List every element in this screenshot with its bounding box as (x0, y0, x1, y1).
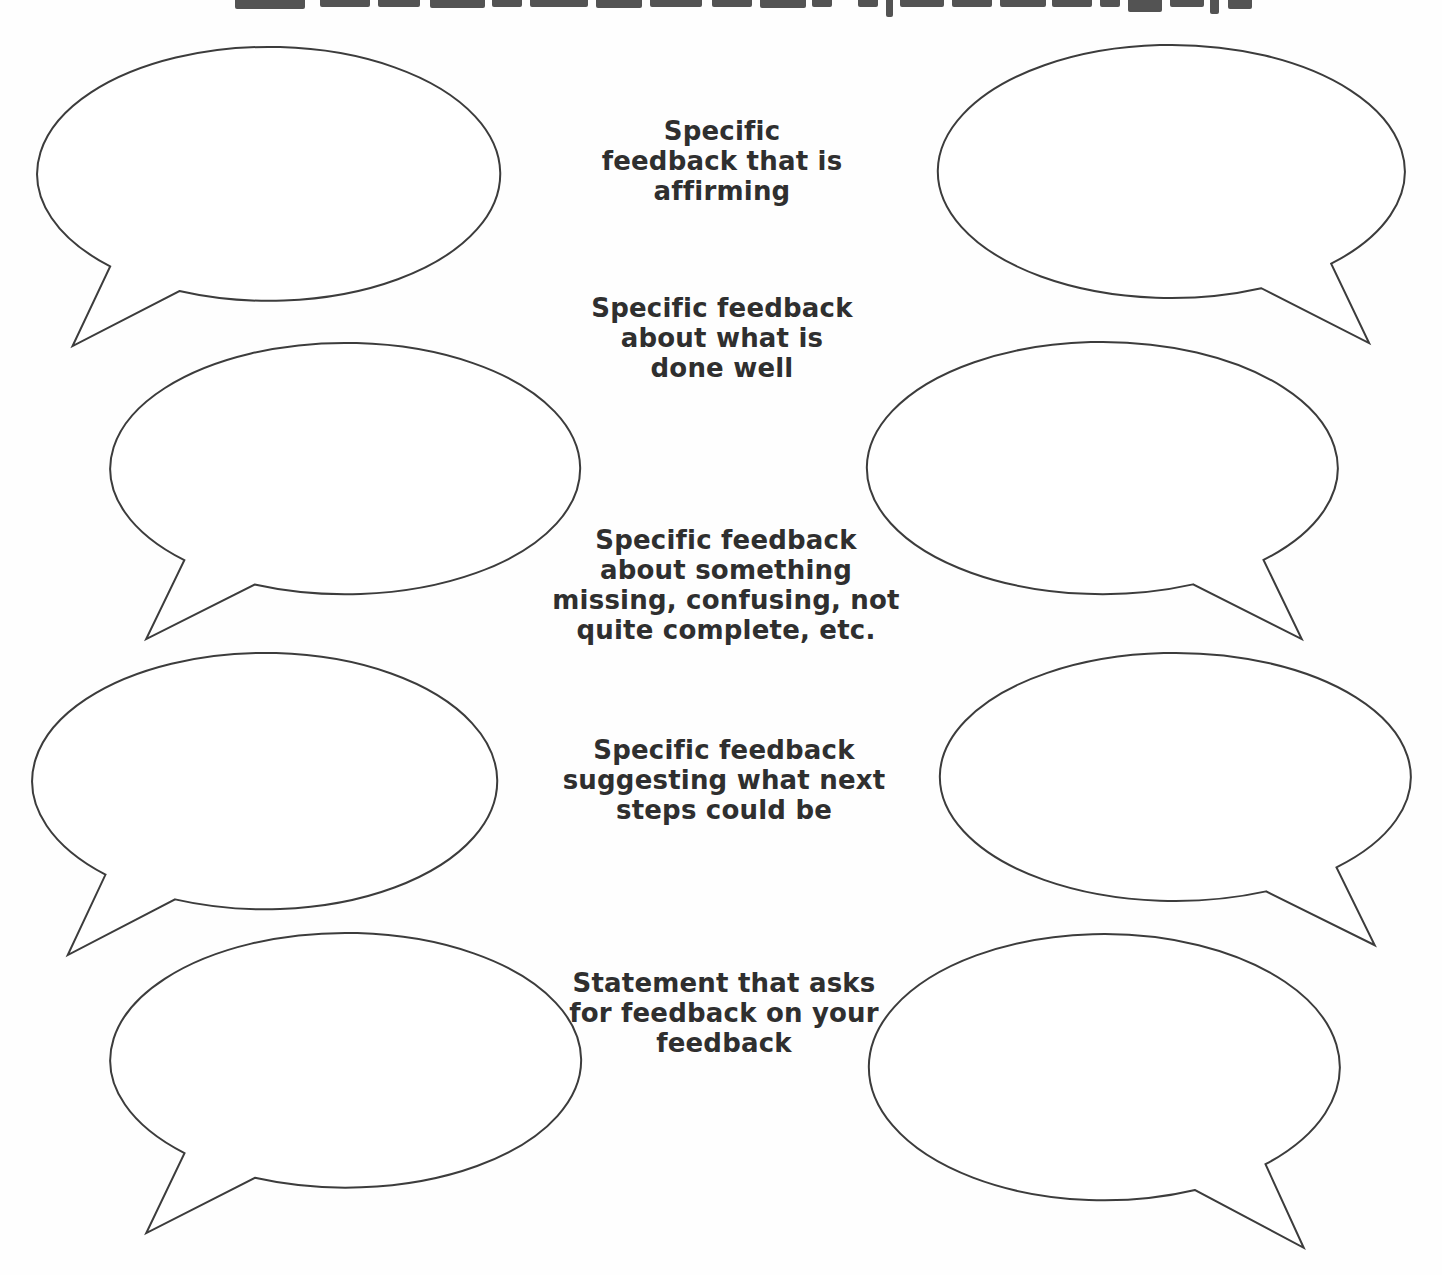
cropped-title-fragment (492, 0, 522, 7)
speech-bubble-row1-left (31, 45, 506, 352)
cropped-title-fragment (1210, 0, 1219, 14)
cropped-title-fragment (812, 0, 832, 7)
cropped-title-fragment (1228, 0, 1252, 9)
cropped-title-fragment (596, 0, 642, 8)
cropped-title-fragment (235, 0, 305, 9)
speech-bubble-row3-left (26, 651, 503, 961)
cropped-title-fragment (1000, 0, 1046, 7)
cropped-title-fragment (430, 0, 485, 8)
cropped-title-fragment (1052, 0, 1092, 7)
feedback-label-affirming: Specific feedback that is affirming (502, 116, 942, 206)
cropped-title-fragment (650, 0, 702, 7)
cropped-title-fragment (886, 0, 893, 17)
cropped-title-fragment (320, 0, 370, 7)
cropped-title-fragment (1170, 0, 1204, 7)
cropped-title-fragment (1100, 0, 1120, 7)
feedback-label-missing-confusing: Specific feedback about something missin… (506, 525, 946, 645)
feedback-label-feedback-on-feedback: Statement that asks for feedback on your… (504, 968, 944, 1058)
cropped-title-fragment (712, 0, 752, 7)
speech-bubble-row3-right (934, 651, 1417, 951)
speech-bubble-row1-right (932, 43, 1411, 349)
cropped-title-fragment (952, 0, 992, 7)
worksheet-page: Specific feedback that is affirmingSpeci… (0, 0, 1442, 1275)
cropped-title-fragment (858, 0, 878, 7)
feedback-label-next-steps: Specific feedback suggesting what next s… (504, 735, 944, 825)
feedback-label-done-well: Specific feedback about what is done wel… (502, 293, 942, 383)
cropped-title-fragment (760, 0, 806, 8)
cropped-title-fragment (378, 0, 420, 7)
cropped-title-fragment (1128, 0, 1162, 12)
cropped-title-fragment (530, 0, 588, 7)
cropped-title-fragment (900, 0, 944, 7)
cropped-title-fragments (0, 0, 1442, 20)
